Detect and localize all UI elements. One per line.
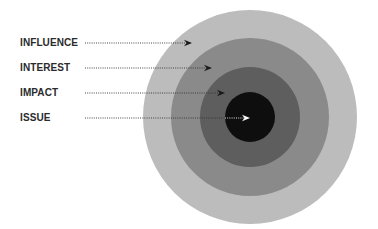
label-issue: ISSUE: [20, 112, 51, 124]
concentric-circle-diagram: INFLUENCEINTERESTIMPACTISSUE: [0, 0, 378, 229]
label-interest: INTEREST: [20, 62, 70, 74]
label-impact: IMPACT: [20, 87, 58, 99]
arrowhead-icon: [204, 65, 212, 71]
arrowhead-icon: [217, 90, 225, 96]
arrow-issue: [85, 115, 250, 121]
arrow-impact: [85, 90, 225, 96]
label-influence: INFLUENCE: [20, 37, 78, 49]
arrowhead-icon: [184, 40, 192, 46]
arrow-influence: [85, 40, 192, 46]
pointer-arrows-layer: [0, 0, 378, 229]
arrow-interest: [85, 65, 212, 71]
